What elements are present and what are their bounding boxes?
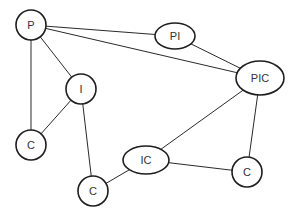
node-label: I bbox=[79, 83, 82, 95]
node-label: C bbox=[89, 185, 97, 197]
nodes-layer: PPIPICICICCC bbox=[16, 10, 284, 206]
node-label: C bbox=[27, 139, 35, 151]
edge-p-pic bbox=[31, 25, 260, 78]
node-pic: PIC bbox=[236, 61, 284, 95]
node-c1: C bbox=[16, 130, 46, 160]
node-p: P bbox=[16, 10, 46, 40]
node-label: P bbox=[27, 19, 34, 31]
node-label: C bbox=[243, 166, 251, 178]
node-c3: C bbox=[78, 176, 108, 206]
node-pi: PI bbox=[155, 23, 195, 49]
node-c2: C bbox=[232, 157, 262, 187]
node-label: IC bbox=[141, 154, 152, 166]
node-label: PI bbox=[170, 30, 180, 42]
node-ic: IC bbox=[123, 146, 169, 174]
node-label: PIC bbox=[251, 72, 269, 84]
graph-diagram: PPIPICICICCC bbox=[0, 0, 299, 220]
node-i: I bbox=[66, 74, 96, 104]
